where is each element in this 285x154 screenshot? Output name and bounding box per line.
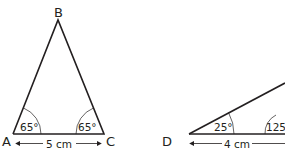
angle-label-d: 25° (214, 121, 233, 133)
angle-label-c: 65° (78, 121, 97, 133)
angle-label-a: 65° (20, 121, 39, 133)
base-length-label-d: 4 cm (224, 138, 250, 150)
vertex-label-d: D (162, 134, 172, 149)
triangle-d: D 25° 125° 4 cm (162, 83, 285, 150)
vertex-label-a: A (2, 134, 11, 149)
vertex-label-c: C (106, 134, 115, 149)
base-length-label: 5 cm (46, 138, 72, 150)
triangle-abc: B A C 65° 65° 5 cm (2, 5, 115, 150)
geometry-diagram: B A C 65° 65° 5 cm D 25° 125° 4 cm (0, 0, 285, 154)
vertex-label-b: B (54, 5, 63, 20)
angle-label-other: 125° (266, 121, 285, 133)
